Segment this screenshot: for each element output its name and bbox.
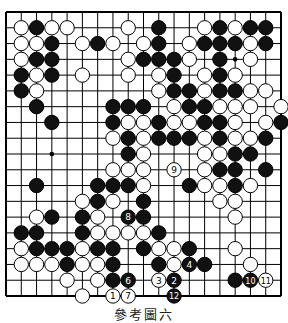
black-stone xyxy=(197,36,211,50)
white-stone xyxy=(136,226,150,240)
black-stone xyxy=(228,163,242,177)
white-stone xyxy=(60,21,74,35)
black-stone xyxy=(197,257,211,271)
black-stone xyxy=(213,36,227,50)
white-stone xyxy=(243,36,257,50)
black-stone xyxy=(90,36,104,50)
move-number-label: 8 xyxy=(125,212,131,222)
white-stone xyxy=(106,226,120,240)
white-stone xyxy=(121,21,135,35)
black-stone xyxy=(45,115,59,129)
black-stone xyxy=(29,21,43,35)
white-stone xyxy=(197,147,211,161)
white-stone xyxy=(167,99,181,113)
white-stone xyxy=(182,115,196,129)
black-stone xyxy=(29,241,43,255)
black-stone xyxy=(136,99,150,113)
black-stone xyxy=(106,257,120,271)
black-stone xyxy=(106,241,120,255)
white-stone xyxy=(90,226,104,240)
black-stone xyxy=(29,178,43,192)
white-stone xyxy=(136,163,150,177)
black-stone: 8 xyxy=(121,210,135,224)
white-stone xyxy=(75,194,89,208)
move-number-label: 11 xyxy=(261,277,271,286)
move-number-label: 12 xyxy=(169,292,179,301)
black-stone xyxy=(213,68,227,82)
white-stone xyxy=(14,241,28,255)
white-stone xyxy=(243,178,257,192)
white-stone xyxy=(197,178,211,192)
white-stone xyxy=(75,68,89,82)
white-stone xyxy=(75,257,89,271)
black-stone xyxy=(274,115,288,129)
black-stone xyxy=(259,163,273,177)
white-stone xyxy=(29,257,43,271)
black-stone xyxy=(45,52,59,66)
white-stone xyxy=(243,131,257,145)
white-stone xyxy=(121,163,135,177)
white-stone xyxy=(90,210,104,224)
black-stone xyxy=(60,241,74,255)
diagram-caption: 參考圖六 xyxy=(0,304,288,323)
black-stone xyxy=(228,84,242,98)
black-stone xyxy=(121,131,135,145)
white-stone xyxy=(152,241,166,255)
black-stone xyxy=(90,241,104,255)
move-number-label: 1 xyxy=(110,291,116,301)
black-stone xyxy=(121,147,135,161)
black-stone: 4 xyxy=(182,257,196,271)
white-stone xyxy=(243,84,257,98)
black-stone xyxy=(213,52,227,66)
white-stone xyxy=(197,68,211,82)
white-stone xyxy=(121,115,135,129)
white-stone xyxy=(136,178,150,192)
black-stone xyxy=(136,194,150,208)
white-stone xyxy=(75,289,89,303)
move-number-label: 9 xyxy=(171,165,177,175)
white-stone xyxy=(14,21,28,35)
white-stone xyxy=(259,84,273,98)
black-stone xyxy=(259,131,273,145)
go-board-diagram: 98463210111712 xyxy=(0,0,288,305)
black-stone xyxy=(228,273,242,287)
white-stone xyxy=(213,99,227,113)
white-stone xyxy=(152,68,166,82)
white-stone xyxy=(136,115,150,129)
white-stone xyxy=(75,36,89,50)
white-stone xyxy=(29,68,43,82)
black-stone: 2 xyxy=(167,273,181,287)
white-stone xyxy=(14,52,28,66)
white-stone xyxy=(167,115,181,129)
move-number-label: 6 xyxy=(125,276,131,286)
black-stone xyxy=(29,226,43,240)
white-stone xyxy=(14,36,28,50)
black-stone xyxy=(106,99,120,113)
black-stone: 12 xyxy=(167,289,181,303)
black-stone xyxy=(197,99,211,113)
black-stone xyxy=(228,178,242,192)
white-stone xyxy=(228,194,242,208)
white-stone xyxy=(167,257,181,271)
white-stone xyxy=(182,52,196,66)
black-stone xyxy=(75,210,89,224)
white-stone xyxy=(228,21,242,35)
black-stone xyxy=(152,21,166,35)
black-stone xyxy=(29,52,43,66)
black-stone xyxy=(152,131,166,145)
black-stone xyxy=(182,131,196,145)
black-stone xyxy=(60,257,74,271)
black-stone xyxy=(121,178,135,192)
white-stone xyxy=(228,68,242,82)
black-stone: 6 xyxy=(121,273,135,287)
black-stone xyxy=(14,84,28,98)
black-stone xyxy=(29,99,43,113)
white-stone xyxy=(213,147,227,161)
move-number-label: 3 xyxy=(156,276,162,286)
white-stone xyxy=(228,241,242,255)
go-board: 98463210111712 xyxy=(0,0,288,305)
star-point xyxy=(233,57,238,62)
black-stone xyxy=(45,36,59,50)
white-stone xyxy=(121,226,135,240)
white-stone xyxy=(167,241,181,255)
